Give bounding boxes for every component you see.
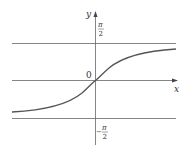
neg-pi-half-numerator: π	[101, 124, 107, 132]
neg-pi-half-denominator: 2	[103, 133, 107, 141]
y-axis-label: y	[85, 9, 92, 19]
y-axis-arrow-icon	[94, 11, 98, 17]
plot-svg: y x 0 π 2 − π 2	[0, 0, 192, 155]
pi-half-numerator: π	[97, 21, 103, 29]
origin-label: 0	[86, 70, 92, 80]
x-axis-arrow-icon	[172, 79, 178, 83]
arctan-graph: y x 0 π 2 − π 2	[0, 0, 192, 155]
x-axis-label: x	[174, 84, 179, 94]
pi-half-denominator: 2	[99, 30, 103, 38]
